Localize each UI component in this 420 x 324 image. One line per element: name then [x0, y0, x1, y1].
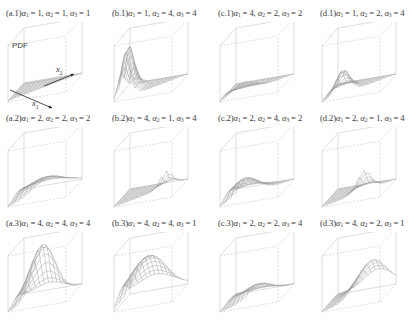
surface-plot	[4, 232, 108, 324]
surface-plot	[318, 22, 420, 114]
panel-c-2: (c.2)α1 = 2, α2 = 4, α3 = 2	[216, 113, 320, 219]
panel-title: (b.2)α1 = 4, α2 = 1, α3 = 4	[112, 113, 197, 123]
alpha-value: 2	[62, 113, 66, 123]
panel-label: (c.3)	[218, 218, 233, 228]
panel-label: (b.1)	[112, 8, 128, 18]
alpha-value: 2	[376, 8, 380, 18]
alpha-value: 2	[249, 218, 253, 228]
alpha-value: 1	[62, 8, 66, 18]
surface-plot	[110, 22, 214, 114]
panel-label: (d.3)	[320, 218, 336, 228]
panel-label: (c.2)	[218, 113, 233, 123]
panel-title: (d.3)α1 = 4, α2 = 2, α3 = 1	[320, 218, 405, 228]
surface-plot	[110, 232, 214, 324]
alpha-value: 1	[400, 218, 404, 228]
alpha-value: 4	[144, 113, 148, 123]
surface-plot	[318, 127, 420, 219]
alpha-value: 4	[86, 218, 90, 228]
panel-title: (a.1)α1 = 1, α2 = 1, α3 = 1	[6, 8, 90, 18]
panel-title: (d.2)α1 = 2, α2 = 1, α3 = 4	[320, 113, 405, 123]
panel-d-1: (d.1)α1 = 1, α2 = 2, α3 = 4	[318, 8, 420, 114]
panel-label: (d.2)	[320, 113, 336, 123]
surface-plot	[216, 22, 320, 114]
z-axis-label: PDF	[12, 41, 28, 50]
alpha-value: 1	[86, 8, 90, 18]
panel-title: (a.2)α1 = 2, α2 = 2, α3 = 2	[6, 113, 90, 123]
panel-b-1: (b.1)α1 = 1, α2 = 4, α3 = 4	[110, 8, 214, 114]
alpha-value: 4	[192, 8, 196, 18]
alpha-value: 4	[352, 218, 356, 228]
alpha-value: 4	[274, 113, 278, 123]
surface-plot	[216, 232, 320, 324]
alpha-value: 4	[144, 218, 148, 228]
x1-axis-label: x1	[32, 98, 39, 110]
alpha-value: 4	[400, 113, 404, 123]
panel-b-3: (b.3)α1 = 4, α2 = 4, α3 = 1	[110, 218, 214, 324]
panel-title: (d.1)α1 = 1, α2 = 2, α3 = 4	[320, 8, 405, 18]
panel-title: (c.2)α1 = 2, α2 = 4, α3 = 2	[218, 113, 302, 123]
panel-d-2: (d.2)α1 = 2, α2 = 1, α3 = 4	[318, 113, 420, 219]
panel-label: (a.2)	[6, 113, 21, 123]
panel-b-2: (b.2)α1 = 4, α2 = 1, α3 = 4	[110, 113, 214, 219]
alpha-value: 1	[352, 8, 356, 18]
panel-label: (c.1)	[218, 8, 233, 18]
panel-c-1: (c.1)α1 = 4, α2 = 2, α3 = 2	[216, 8, 320, 114]
alpha-value: 2	[352, 113, 356, 123]
alpha-value: 4	[298, 218, 302, 228]
panel-title: (b.1)α1 = 1, α2 = 4, α3 = 4	[112, 8, 197, 18]
panel-a-3: (a.3)α1 = 4, α2 = 4, α3 = 4	[4, 218, 108, 324]
panel-d-3: (d.3)α1 = 4, α2 = 2, α3 = 1	[318, 218, 420, 324]
alpha-value: 1	[168, 113, 172, 123]
alpha-value: 1	[144, 8, 148, 18]
alpha-value: 1	[376, 113, 380, 123]
surface-plot	[4, 127, 108, 219]
alpha-value: 2	[376, 218, 380, 228]
panel-title: (c.1)α1 = 4, α2 = 2, α3 = 2	[218, 8, 302, 18]
alpha-value: 2	[37, 113, 41, 123]
panel-label: (a.3)	[6, 218, 21, 228]
panel-title: (b.3)α1 = 4, α2 = 4, α3 = 1	[112, 218, 197, 228]
alpha-value: 4	[400, 8, 404, 18]
alpha-value: 2	[274, 218, 278, 228]
alpha-value: 2	[86, 113, 90, 123]
alpha-value: 1	[192, 218, 196, 228]
panel-title: (a.3)α1 = 4, α2 = 4, α3 = 4	[6, 218, 90, 228]
panel-label: (a.1)	[6, 8, 21, 18]
alpha-value: 2	[298, 8, 302, 18]
alpha-value: 4	[192, 113, 196, 123]
alpha-value: 4	[62, 218, 66, 228]
alpha-value: 2	[249, 113, 253, 123]
alpha-value: 1	[37, 8, 41, 18]
panel-label: (d.1)	[320, 8, 336, 18]
x2-axis-label: x2	[56, 64, 63, 76]
alpha-value: 4	[168, 8, 172, 18]
alpha-value: 4	[37, 218, 41, 228]
panel-label: (b.3)	[112, 218, 128, 228]
alpha-value: 2	[298, 113, 302, 123]
panel-c-3: (c.3)α1 = 2, α2 = 2, α3 = 4	[216, 218, 320, 324]
panel-label: (b.2)	[112, 113, 128, 123]
panel-a-2: (a.2)α1 = 2, α2 = 2, α3 = 2	[4, 113, 108, 219]
surface-plot	[110, 127, 214, 219]
surface-plot	[216, 127, 320, 219]
alpha-value: 4	[168, 218, 172, 228]
panel-a-1: (a.1)α1 = 1, α2 = 1, α3 = 1PDFx2x1	[4, 8, 108, 114]
surface-plot	[318, 232, 420, 324]
alpha-value: 4	[249, 8, 253, 18]
panel-title: (c.3)α1 = 2, α2 = 2, α3 = 4	[218, 218, 302, 228]
alpha-value: 2	[274, 8, 278, 18]
